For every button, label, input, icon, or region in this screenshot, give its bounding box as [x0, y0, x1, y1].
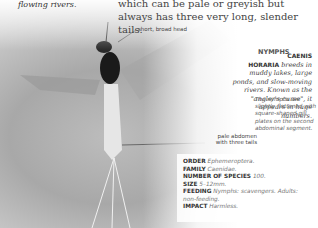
- fact-row: NUMBER OF SPECIES 100.: [183, 173, 312, 181]
- species-name-2: HORARIA: [248, 61, 279, 68]
- abdomen-annotation: pale abdomen with three tails: [207, 133, 257, 145]
- fact-box: ORDER Ephemeroptera. FAMILY Caenidae. NU…: [177, 154, 318, 222]
- fact-row: SIZE 5–12mm.: [183, 181, 312, 189]
- nymphs-caption: The nymphs are slightly flattened with s…: [255, 96, 318, 132]
- head-annotation: short, broad head: [138, 26, 187, 32]
- fact-row: ORDER Ephemeroptera.: [183, 158, 312, 166]
- fact-row: FAMILY Caenidae.: [183, 166, 312, 174]
- nymphs-title: NYMPHS: [258, 48, 290, 56]
- fact-row: IMPACT Harmless.: [183, 203, 312, 211]
- fact-row: FEEDING Nymphs: scavengers. Adults: non-…: [183, 188, 312, 203]
- species-name-1: CAENIS: [287, 52, 312, 59]
- intro-fragment: flowing rivers.: [18, 0, 76, 9]
